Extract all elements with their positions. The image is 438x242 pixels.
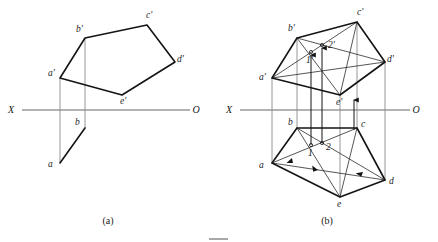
label-b-prime-a: b' <box>76 24 84 34</box>
label-a-a: a <box>48 159 53 169</box>
caption-b: (b) <box>321 215 333 227</box>
label-e-prime-a: e' <box>120 96 127 106</box>
label-c-prime-a: c' <box>146 10 153 20</box>
label-two: 2 <box>326 142 331 152</box>
top-edge-ab-a <box>60 128 85 163</box>
panel-a-axis: X O <box>7 104 200 115</box>
caption-a: (a) <box>102 215 113 227</box>
panel-b-top-labels: a b c d e 1 2 <box>259 117 394 209</box>
panel-a-front-labels: a' b' c' d' e' <box>48 10 185 106</box>
direction-arrow-a-c <box>286 158 294 165</box>
label-one-prime: 1' <box>306 55 314 65</box>
panel-b-direction-arrows <box>286 158 363 177</box>
label-b-a: b <box>75 117 80 127</box>
label-d-b: d <box>389 176 394 186</box>
label-d-prime-b: d' <box>387 54 395 64</box>
label-a-prime-b: a' <box>259 72 267 82</box>
label-a-b: a <box>259 160 264 170</box>
label-e-prime-b: e' <box>336 97 343 107</box>
label-b-b: b <box>288 117 293 127</box>
construction-ap-cp <box>272 22 357 78</box>
label-d-prime-a: d' <box>177 54 185 64</box>
axis-label-o-a: O <box>192 104 199 115</box>
panel-a: X O a' b' c' d' e' <box>7 10 200 227</box>
panel-a-front-view <box>60 25 175 95</box>
construction-ap-dp <box>272 62 385 78</box>
label-c-prime-b: c' <box>357 7 364 17</box>
label-two-prime: 2' <box>328 40 336 50</box>
axis-label-x-b: X <box>225 104 233 115</box>
direction-arrow-b-e <box>310 164 318 173</box>
label-e-b: e <box>337 199 341 209</box>
label-one: 1 <box>308 148 313 158</box>
projection-drawing-canvas: X O a' b' c' d' e' <box>0 0 438 242</box>
axis-label-o-b: O <box>412 104 419 115</box>
front-pentagon-a <box>60 25 175 95</box>
label-a-prime-a: a' <box>48 68 56 78</box>
axis-label-x-a: X <box>7 104 15 115</box>
label-c-b: c <box>361 119 366 129</box>
label-b-prime-b: b' <box>288 23 296 33</box>
panel-a-top-view <box>60 128 85 163</box>
panel-b: X O <box>225 7 420 227</box>
technical-drawing-figure: X O a' b' c' d' e' <box>0 0 438 242</box>
construction-c-e <box>340 128 357 197</box>
